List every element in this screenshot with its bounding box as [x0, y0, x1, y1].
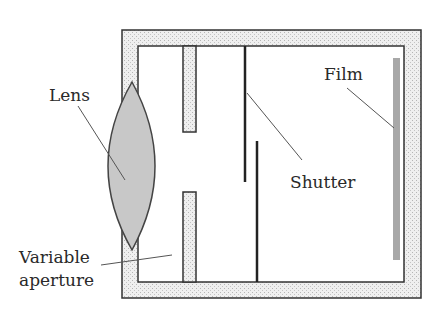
camera-body	[122, 30, 421, 298]
label-film: Film	[324, 64, 363, 84]
film	[393, 58, 400, 260]
shutter	[245, 46, 257, 282]
aperture-blades	[183, 46, 196, 282]
lens	[108, 82, 155, 250]
label-aperture: aperture	[19, 270, 94, 290]
camera-diagram: Lens Film Shutter Variable aperture	[0, 0, 442, 313]
label-lens: Lens	[49, 85, 90, 105]
label-variable: Variable	[18, 247, 90, 267]
label-shutter: Shutter	[290, 172, 356, 192]
